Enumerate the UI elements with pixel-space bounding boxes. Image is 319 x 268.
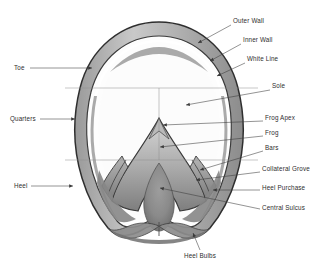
label-frog: Frog: [265, 129, 279, 137]
label-quarters: Quarters: [10, 115, 36, 123]
label-white-line: White Line: [247, 55, 279, 62]
label-inner-wall: Inner Wall: [243, 36, 273, 43]
label-toe: Toe: [14, 64, 25, 71]
label-heel-purchase: Heel Purchase: [262, 184, 306, 191]
label-sole: Sole: [272, 82, 286, 89]
hoof-diagram-svg: ToeQuartersHeelOuter WallInner WallWhite…: [0, 0, 319, 268]
hoof-anatomy-figure: ToeQuartersHeelOuter WallInner WallWhite…: [0, 0, 319, 268]
label-heel-bulbs: Heel Bulbs: [184, 252, 216, 259]
label-bars: Bars: [265, 144, 279, 151]
label-heel: Heel: [14, 182, 28, 189]
label-frog-apex: Frog Apex: [265, 114, 296, 122]
label-outer-wall: Outer Wall: [233, 17, 264, 24]
label-collateral-grove: Collateral Grove: [262, 165, 310, 172]
label-central-sulcus: Central Sulcus: [262, 204, 305, 211]
